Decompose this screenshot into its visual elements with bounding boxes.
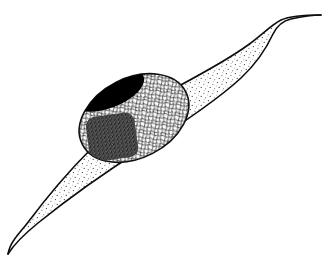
cell-diagram — [0, 0, 326, 269]
figure-root — [0, 0, 326, 269]
nucleolus-body — [85, 112, 139, 162]
nucleolus — [85, 112, 139, 162]
